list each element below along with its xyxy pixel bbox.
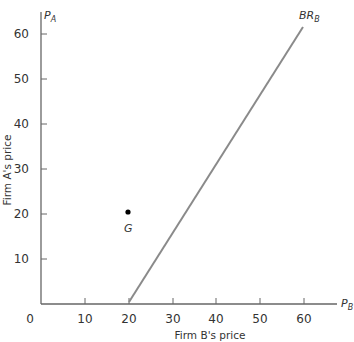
y-tick-label: 20 <box>14 207 29 221</box>
y-ticks <box>41 34 47 259</box>
x-tick-label: 50 <box>252 312 267 326</box>
point-g-label: G <box>124 222 133 235</box>
y-tick-label: 50 <box>14 72 29 86</box>
y-tick-label: 60 <box>14 27 29 41</box>
y-tick-label: 10 <box>14 252 29 266</box>
x-tick-label: 30 <box>165 312 180 326</box>
br-b-line <box>129 27 303 302</box>
x-axis-symbol: PB <box>341 297 353 312</box>
x-axis-title: Firm B's price <box>175 329 246 341</box>
origin-label: 0 <box>26 312 34 326</box>
x-tick-label: 20 <box>121 312 136 326</box>
x-ticks <box>85 298 304 304</box>
y-axis-symbol: PA <box>44 9 56 24</box>
y-axis-title: Firm A's price <box>1 135 13 206</box>
x-tick-label: 10 <box>77 312 92 326</box>
x-tick-label: 60 <box>296 312 311 326</box>
chart: 60 50 40 30 20 10 0 10 20 30 40 50 60 Fi… <box>0 0 354 342</box>
point-g <box>125 209 130 214</box>
x-tick-label: 40 <box>208 312 223 326</box>
y-tick-label: 30 <box>14 162 29 176</box>
br-b-label: BRB <box>299 9 320 24</box>
y-tick-label: 40 <box>14 117 29 131</box>
